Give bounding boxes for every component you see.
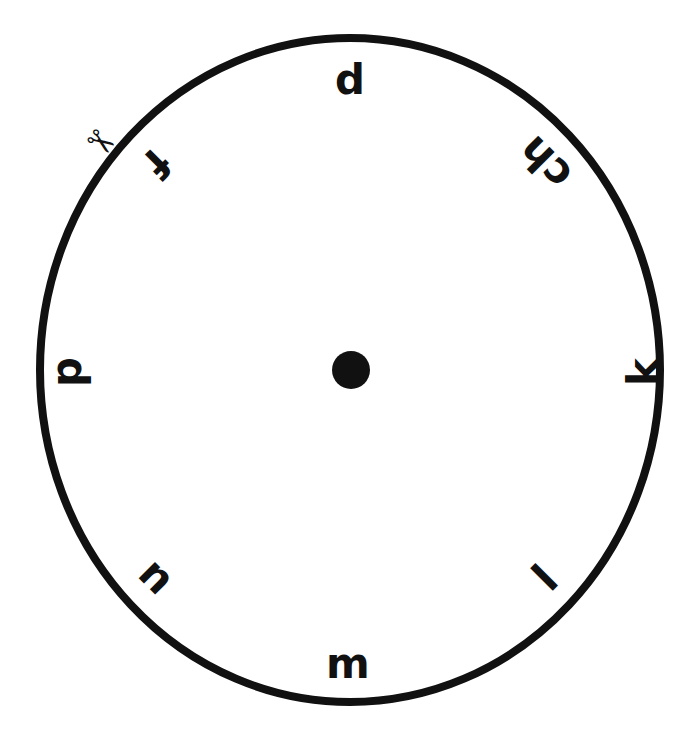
scissors-icon[interactable]: ✂	[78, 117, 124, 166]
wheel-letter-n[interactable]: n	[129, 548, 185, 604]
wheel-letter-p[interactable]: p	[335, 61, 365, 110]
wheel-letter-l[interactable]: l	[523, 556, 568, 601]
wheel-letter-d[interactable]: d	[48, 357, 97, 387]
cut-mark-group[interactable]: ✂	[78, 117, 124, 166]
wheel-letter-k[interactable]: k	[619, 357, 668, 386]
wheel-letter-m[interactable]: m	[326, 639, 370, 688]
letter-wheel-page: pchklmndf ✂	[0, 0, 698, 729]
letter-wheel-canvas: pchklmndf ✂	[0, 0, 698, 729]
wheel-letter-f[interactable]: f	[133, 139, 181, 187]
center-pivot-dot[interactable]	[332, 351, 370, 389]
